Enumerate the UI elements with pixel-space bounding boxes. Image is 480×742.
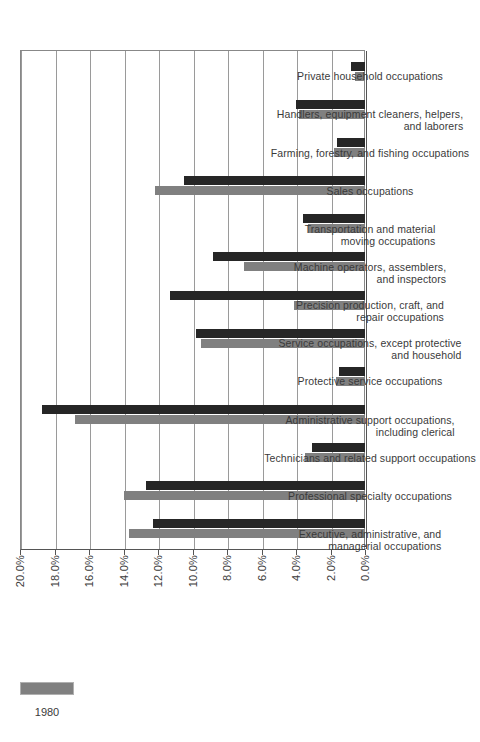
- bar: [337, 138, 365, 147]
- legend-label-1980: 1980: [35, 706, 59, 718]
- category-axis-cell: Protective service occupations: [367, 366, 480, 387]
- category-label-line-1: Protective service occupations: [298, 375, 443, 387]
- category-label-line-2: and inspectors: [294, 273, 446, 285]
- category-label-line-1: Precision production, craft, and: [296, 299, 444, 311]
- category-label-line-1: Transportation and material: [305, 223, 436, 235]
- category-axis-cell: Transportation and materialmoving occupa…: [367, 213, 480, 234]
- category-label-line-1: Service occupations, except protective: [279, 337, 462, 349]
- value-axis-tick-mark: [158, 550, 159, 555]
- bar: [312, 443, 365, 452]
- category-label-line-2: moving occupations: [305, 235, 436, 247]
- bar: [146, 481, 365, 490]
- category-axis-cell: Service occupations, except protectivean…: [367, 328, 480, 349]
- category-axis-label: Private household occupations: [297, 71, 443, 83]
- value-axis-tick-label: 8.0%: [221, 555, 233, 581]
- category-axis-cell: Handlers, equipment cleaners, helpers,an…: [367, 99, 480, 120]
- category-label-line-2: and household: [279, 350, 462, 362]
- category-label-line-1: Handlers, equipment cleaners, helpers,: [277, 108, 463, 120]
- category-axis-label: Sales occupations: [327, 186, 414, 198]
- category-label-line-1: Administrative support occupations,: [285, 414, 454, 426]
- value-axis: 0.0%2.0%4.0%6.0%8.0%10.0%12.0%14.0%16.0%…: [20, 550, 365, 602]
- value-axis-tick-mark: [89, 550, 90, 555]
- value-axis-tick-label: 4.0%: [290, 555, 302, 581]
- value-axis-tick-mark: [296, 550, 297, 555]
- category-label-line-1: Technicians and related support occupati…: [264, 452, 476, 464]
- bar-group: [20, 176, 365, 195]
- value-axis-tick-mark: [262, 550, 263, 555]
- value-axis-tick-label: 20.0%: [14, 555, 26, 587]
- value-axis-tick-label: 10.0%: [187, 555, 199, 587]
- category-label-line-2: including clerical: [285, 426, 454, 438]
- category-axis-cell: Private household occupations: [367, 61, 480, 82]
- category-axis-label: Protective service occupations: [298, 376, 443, 388]
- value-axis-tick-label: 18.0%: [49, 555, 61, 587]
- category-axis-label: Executive, administrative, andmanagerial…: [299, 529, 441, 552]
- category-axis-label: Handlers, equipment cleaners, helpers,an…: [277, 109, 463, 132]
- category-axis-label: Technicians and related support occupati…: [264, 453, 476, 465]
- category-axis-cell: Executive, administrative, andmanagerial…: [367, 518, 480, 539]
- legend-swatch-1980: [20, 682, 74, 695]
- category-label-line-2: repair occupations: [296, 312, 444, 324]
- value-axis-tick-mark: [55, 550, 56, 555]
- category-label-line-1: Professional specialty occupations: [288, 490, 452, 502]
- value-axis-tick-mark: [193, 550, 194, 555]
- category-axis-label: Precision production, craft, andrepair o…: [296, 300, 444, 323]
- category-label-line-2: managerial occupations: [299, 540, 441, 552]
- category-label-line-1: Private household occupations: [297, 70, 443, 82]
- value-axis-tick-mark: [227, 550, 228, 555]
- bar: [303, 214, 365, 223]
- category-axis-cell: Technicians and related support occupati…: [367, 442, 480, 463]
- category-label-line-1: Farming, forestry, and fishing occupatio…: [271, 147, 469, 159]
- category-axis-label: Service occupations, except protectivean…: [279, 338, 462, 361]
- category-axis-cell: Machine operators, assemblers,and inspec…: [367, 251, 480, 272]
- value-axis-tick-label: 6.0%: [256, 555, 268, 581]
- category-axis-cell: Farming, forestry, and fishing occupatio…: [367, 137, 480, 158]
- category-label-line-2: and laborers: [277, 121, 463, 133]
- category-axis-label: Machine operators, assemblers,and inspec…: [294, 262, 446, 285]
- value-axis-tick-label: 16.0%: [83, 555, 95, 587]
- category-axis-label: Professional specialty occupations: [288, 491, 452, 503]
- category-axis-cell: Sales occupations: [367, 175, 480, 196]
- value-axis-tick-label: 0.0%: [359, 555, 371, 581]
- category-label-line-1: Executive, administrative, and: [299, 528, 441, 540]
- category-label-line-1: Machine operators, assemblers,: [294, 261, 446, 273]
- category-label-line-1: Sales occupations: [327, 185, 414, 197]
- category-axis-label: Administrative support occupations,inclu…: [285, 415, 454, 438]
- category-axis-cell: Administrative support occupations,inclu…: [367, 404, 480, 425]
- value-axis-tick-label: 14.0%: [118, 555, 130, 587]
- category-axis-label: Farming, forestry, and fishing occupatio…: [271, 148, 469, 160]
- category-axis-cell: Professional specialty occupations: [367, 480, 480, 501]
- value-axis-tick-label: 12.0%: [152, 555, 164, 587]
- value-axis-tick-label: 2.0%: [325, 555, 337, 581]
- value-axis-tick-mark: [124, 550, 125, 555]
- category-axis-label: Transportation and materialmoving occupa…: [305, 224, 436, 247]
- bar: [184, 176, 365, 185]
- chart-legend: 1980: [20, 682, 74, 724]
- category-axis-labels: Executive, administrative, andmanagerial…: [367, 50, 480, 550]
- category-axis-cell: Precision production, craft, andrepair o…: [367, 290, 480, 311]
- value-axis-tick-mark: [20, 550, 21, 555]
- bar: [42, 405, 365, 414]
